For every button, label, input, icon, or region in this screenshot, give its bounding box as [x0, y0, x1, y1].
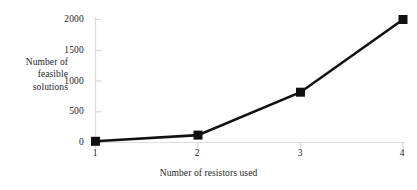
data-markers — [91, 15, 408, 146]
data-point-4 — [399, 15, 408, 24]
data-point-3 — [296, 88, 305, 97]
chart-figure: Number of feasible solutions 2000 1500 1… — [0, 0, 417, 190]
data-line-series-1 — [96, 20, 404, 142]
data-point-2 — [194, 131, 203, 140]
plot-area — [0, 0, 417, 190]
x-axis-ticks — [96, 143, 404, 149]
data-point-1 — [91, 137, 100, 146]
